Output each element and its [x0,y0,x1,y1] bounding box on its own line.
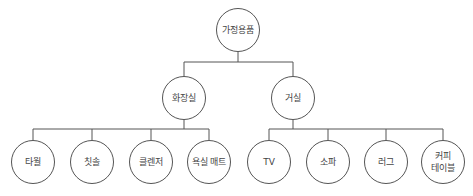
node-label: 화장실 [172,92,196,104]
node-label: 가정용품 [222,24,254,36]
node-label: 칫솔 [84,156,100,168]
node-coffeetable: 커피 테이블 [421,140,465,184]
node-label: 욕실 매트 [192,156,227,168]
node-label: 소파 [320,156,336,168]
node-toothbrush: 칫솔 [70,140,114,184]
node-label: 러그 [378,156,394,168]
node-bathroom: 화장실 [162,76,206,120]
node-towel: 타월 [11,140,55,184]
node-bathmat: 욕실 매트 [187,140,231,184]
node-label: 타월 [25,156,41,168]
node-sofa: 소파 [306,140,350,184]
node-rug: 러그 [364,140,408,184]
node-label: 클렌저 [139,156,163,168]
node-root: 가정용품 [216,8,260,52]
node-label: TV [263,156,275,168]
node-tv: TV [247,140,291,184]
node-label: 커피 테이블 [431,150,455,174]
node-livingroom: 거실 [271,76,315,120]
node-label: 거실 [285,92,301,104]
node-cleanser: 클렌저 [129,140,173,184]
